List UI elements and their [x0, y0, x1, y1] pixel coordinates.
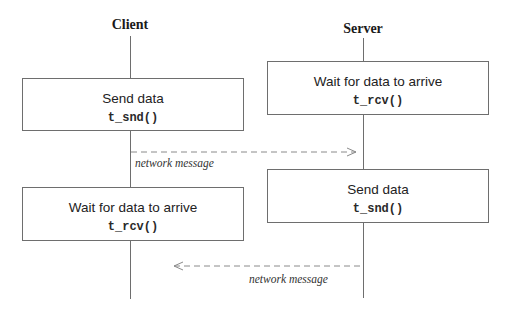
message-label-1: network message [135, 157, 214, 169]
message-label-2: network message [249, 273, 328, 285]
message-arrows [0, 0, 510, 311]
message-arrow-server-to-client [174, 262, 362, 270]
message-arrow-client-to-server [131, 148, 356, 156]
